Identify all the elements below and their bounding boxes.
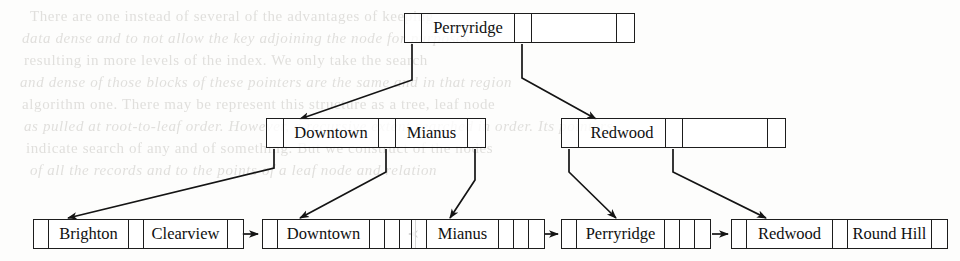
link-root-to-internal-left — [300, 44, 412, 119]
node-key-cell: Redwood — [747, 220, 833, 248]
node-pointer-cell — [228, 220, 243, 248]
node-empty-cell — [514, 220, 529, 248]
node-key-cell: Downtown — [278, 220, 370, 248]
node-empty-cell — [683, 119, 768, 147]
background-text-line: resulting in more levels of the index. W… — [24, 52, 428, 69]
node-empty-cell — [665, 220, 680, 248]
node-empty-cell — [680, 220, 695, 248]
link-internal-left-to-leaf-3 — [450, 149, 475, 218]
node-key-cell: Mianus — [396, 119, 468, 147]
node-key-cell: Mianus — [427, 220, 499, 248]
node-pointer-cell — [515, 14, 532, 42]
node-pointer-cell — [562, 220, 577, 248]
b-plus-tree-figure: There are one instead of several of the … — [0, 0, 960, 261]
node-key-cell: Redwood — [579, 119, 666, 147]
link-internal-left-to-leaf-1 — [68, 149, 274, 218]
leaf-node-perryridge: Perryridge — [561, 219, 711, 249]
node-key-cell: Round Hill — [848, 220, 932, 248]
node-key-cell: Perryridge — [577, 220, 665, 248]
node-pointer-cell — [34, 220, 49, 248]
node-key-cell: Downtown — [284, 119, 379, 147]
background-text-line: data dense and to not allow the key adjo… — [22, 30, 470, 47]
node-empty-cell — [617, 14, 634, 42]
node-pointer-cell — [562, 119, 579, 147]
internal-node-left: DowntownMianus — [266, 118, 486, 148]
node-pointer-cell — [833, 220, 848, 248]
node-pointer-cell — [732, 220, 747, 248]
link-internal-right-to-leaf-4 — [569, 149, 616, 218]
node-pointer-cell — [666, 119, 683, 147]
node-pointer-cell — [932, 220, 947, 248]
node-pointer-cell — [267, 119, 284, 147]
node-pointer-cell — [263, 220, 278, 248]
background-text-line: algorithm one. There may be represent th… — [22, 96, 495, 113]
node-key-cell: Perryridge — [422, 14, 515, 42]
node-empty-cell — [370, 220, 385, 248]
node-pointer-cell — [412, 220, 427, 248]
node-empty-cell — [529, 220, 544, 248]
node-pointer-cell — [468, 119, 485, 147]
root-node: Perryridge — [404, 13, 635, 43]
node-key-cell: Brighton — [49, 220, 129, 248]
leaf-node-downtown: Downtown — [262, 219, 416, 249]
node-empty-cell — [532, 14, 617, 42]
internal-node-right: Redwood — [561, 118, 786, 148]
link-internal-right-to-leaf-5 — [673, 149, 766, 218]
node-pointer-cell — [129, 220, 144, 248]
node-pointer-cell — [379, 119, 396, 147]
leaf-node-redwood-roundhill: RedwoodRound Hill — [731, 219, 948, 249]
link-root-to-internal-right — [522, 44, 596, 119]
background-text-line: and dense of those blocks of these point… — [20, 74, 512, 91]
background-text-line: of all the records and to the points of … — [30, 162, 437, 179]
background-text-line: There are one instead of several of the … — [30, 8, 434, 25]
node-empty-cell — [499, 220, 514, 248]
leaf-node-brighton-clearview: BrightonClearview — [33, 219, 244, 249]
node-empty-cell — [695, 220, 710, 248]
node-pointer-cell — [405, 14, 422, 42]
link-internal-left-to-leaf-2 — [300, 149, 386, 218]
leaf-node-mianus: Mianus — [411, 219, 545, 249]
node-empty-cell — [385, 220, 400, 248]
node-key-cell: Clearview — [144, 220, 228, 248]
node-empty-cell — [768, 119, 785, 147]
